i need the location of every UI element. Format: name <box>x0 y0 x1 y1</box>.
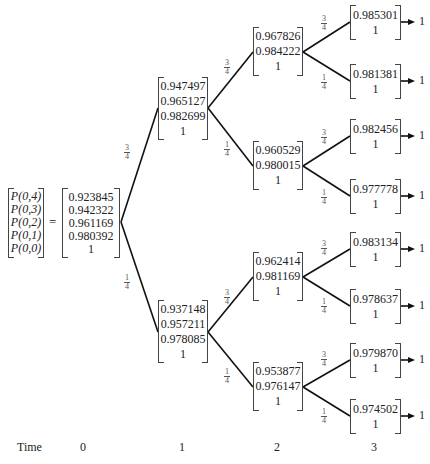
time-axis-label: Time <box>17 440 42 455</box>
prob-down-t1u: 14 <box>224 141 230 158</box>
node-t2-dd: 0.953877 0.976147 1 <box>253 362 303 411</box>
value: 0.980015 <box>256 158 301 173</box>
value: 0.937148 <box>161 302 206 317</box>
value: 0.978085 <box>161 332 206 347</box>
node-t3-duu: 0.9831341 <box>350 232 401 267</box>
prob-down-t2uu: 14 <box>321 74 327 91</box>
terminal-value: 1 <box>419 128 425 143</box>
value: 1 <box>88 243 94 256</box>
value: 0.974502 <box>353 402 398 417</box>
terminal-value: 1 <box>419 73 425 88</box>
time-tick-0: 0 <box>80 440 86 455</box>
prob-down-t2dd: 14 <box>321 408 327 425</box>
price-labels-vector: P(0,4) P(0,3) P(0,2) P(0,1) P(0,0) <box>8 188 44 258</box>
prob-up-t2dd: 34 <box>321 351 327 368</box>
value: 0.981169 <box>256 269 301 284</box>
node-t0: 0.923845 0.942322 0.961169 0.980392 1 <box>62 188 120 258</box>
node-t2-uu: 0.967826 0.984222 1 <box>253 27 303 76</box>
value: 0.953877 <box>256 364 301 379</box>
value: 0.957211 <box>161 317 206 332</box>
node-t3-uuu: 0.9853011 <box>350 5 401 40</box>
node-t3-uud: 0.9813811 <box>350 64 401 99</box>
value: 1 <box>373 250 379 265</box>
prob-up-t2du: 34 <box>321 240 327 257</box>
node-t3-udu: 0.9824561 <box>350 119 401 154</box>
prob-down-t2ud: 14 <box>321 189 327 206</box>
value: 0.942322 <box>69 204 114 217</box>
time-tick-1: 1 <box>179 440 185 455</box>
value: 0.982699 <box>161 109 206 124</box>
value: 0.962414 <box>256 254 301 269</box>
value: 0.984222 <box>256 44 301 59</box>
value: 1 <box>373 417 379 432</box>
prob-down-t1d: 14 <box>224 368 230 385</box>
value: 1 <box>373 307 379 322</box>
value: 0.947497 <box>161 79 206 94</box>
node-t2-ud: 0.960529 0.980015 1 <box>253 141 303 190</box>
value: 0.967826 <box>256 29 301 44</box>
value: 0.981381 <box>353 67 398 82</box>
value: 1 <box>180 124 186 139</box>
terminal-value: 1 <box>419 241 425 256</box>
equals-sign: = <box>49 214 56 230</box>
value: 0.982456 <box>353 122 398 137</box>
value: 0.976147 <box>256 379 301 394</box>
value: 1 <box>180 347 186 362</box>
value: 0.965127 <box>161 94 206 109</box>
value: 1 <box>373 361 379 376</box>
node-t3-udd: 0.9777781 <box>350 179 401 214</box>
node-t3-ddd: 0.9745021 <box>350 399 401 434</box>
prob-up-t1d: 34 <box>224 289 230 306</box>
terminal-value: 1 <box>419 298 425 313</box>
value: 0.960529 <box>256 143 301 158</box>
value: 0.961169 <box>69 217 114 230</box>
terminal-value: 1 <box>419 14 425 29</box>
value: 0.923845 <box>69 191 114 204</box>
value: 0.983134 <box>353 235 398 250</box>
value: 1 <box>275 284 281 299</box>
value: 0.978637 <box>353 292 398 307</box>
value: 1 <box>373 23 379 38</box>
value: 1 <box>275 394 281 409</box>
value: 1 <box>373 197 379 212</box>
prob-up-t0: 34 <box>124 144 130 161</box>
node-t3-dud: 0.9786371 <box>350 289 401 324</box>
label-p00: P(0,0) <box>11 242 41 255</box>
arrow-heads <box>408 19 415 419</box>
value: 1 <box>373 137 379 152</box>
value: 1 <box>373 82 379 97</box>
node-t1-up: 0.947497 0.965127 0.982699 1 <box>158 77 208 140</box>
prob-up-t2ud: 34 <box>321 129 327 146</box>
node-t3-ddu: 0.9798701 <box>350 343 401 378</box>
value: 1 <box>275 173 281 188</box>
prob-down-t0: 14 <box>124 274 130 291</box>
node-t1-down: 0.937148 0.957211 0.978085 1 <box>158 300 208 363</box>
node-t2-du: 0.962414 0.981169 1 <box>253 252 303 301</box>
value: 0.980392 <box>69 230 114 243</box>
value: 0.977778 <box>353 182 398 197</box>
prob-down-t2du: 14 <box>321 298 327 315</box>
terminal-value: 1 <box>419 188 425 203</box>
value: 0.979870 <box>353 346 398 361</box>
time-tick-3: 3 <box>371 440 377 455</box>
time-tick-2: 2 <box>274 440 280 455</box>
terminal-value: 1 <box>419 352 425 367</box>
prob-up-t2uu: 34 <box>321 15 327 32</box>
value: 0.985301 <box>353 8 398 23</box>
terminal-value: 1 <box>419 408 425 423</box>
prob-up-t1u: 34 <box>224 59 230 76</box>
value: 1 <box>275 59 281 74</box>
